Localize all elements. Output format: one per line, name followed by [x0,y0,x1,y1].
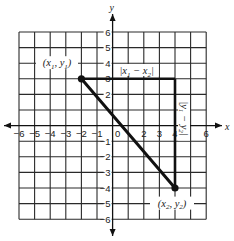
x-tick-label: 2 [141,128,146,139]
y-tick-label: −3 [100,167,111,178]
y-tick-label: −4 [100,183,111,194]
y-tick-label: 2 [105,89,110,100]
y-axis-label: y [109,2,115,13]
y-axis-down-arrow-icon [110,229,116,236]
y-tick-label: −6 [100,214,111,225]
y-tick-label: 5 [105,42,110,53]
x-axis-label: x [224,121,230,132]
x-tick-label: 6 [204,128,209,139]
x-tick-label: 0 [115,128,120,139]
coordinate-diagram: −6−5−4−3−2−10234665432−1−2−3−4−5−6 (x1, … [0,0,234,241]
y-tick-label: −2 [100,151,111,162]
y-tick-label: 6 [105,27,110,38]
y-axis-up-arrow-icon [110,14,116,21]
y-tick-label: −1 [100,136,111,147]
x-tick-label: −4 [45,128,56,139]
y-tick-label: 4 [105,58,110,69]
x-tick-label: −5 [29,128,40,139]
x-tick-label: 3 [157,128,162,139]
x-axis-left-arrow-icon [4,123,11,129]
x-axis-right-arrow-icon [215,123,222,129]
y-tick-label: −5 [100,198,111,209]
x-tick-label: −3 [60,128,71,139]
point-2-dot [171,184,178,191]
point-1-dot [78,75,85,82]
x-tick-label: −2 [76,128,87,139]
x-tick-label: −6 [14,128,25,139]
